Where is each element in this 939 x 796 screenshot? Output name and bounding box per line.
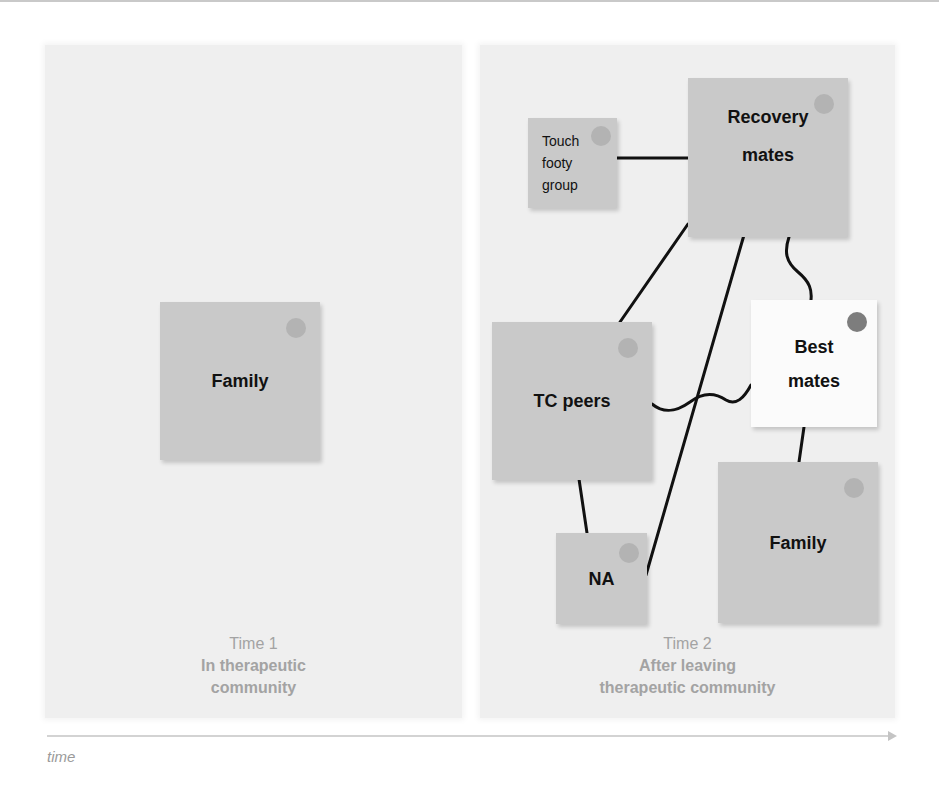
note-label: Family bbox=[769, 528, 826, 558]
note-label: NA bbox=[589, 564, 615, 594]
caption-stage: After leaving therapeutic community bbox=[480, 655, 895, 699]
pin-icon bbox=[847, 312, 867, 332]
note-na: NA bbox=[556, 533, 647, 624]
note-label: TC peers bbox=[533, 386, 610, 416]
note-label: Family bbox=[211, 366, 268, 396]
pin-icon bbox=[591, 126, 611, 146]
top-border bbox=[0, 0, 939, 2]
pin-icon bbox=[619, 543, 639, 563]
caption-time-2: Time 2 After leaving therapeutic communi… bbox=[480, 633, 895, 699]
time-axis-label: time bbox=[47, 748, 75, 765]
note-recovery-mates: Recovery mates bbox=[688, 78, 848, 237]
note-family-time1: Family bbox=[160, 302, 320, 460]
caption-time: Time 2 bbox=[663, 635, 711, 652]
pin-icon bbox=[618, 338, 638, 358]
caption-time: Time 1 bbox=[229, 635, 277, 652]
note-label: Touch footy group bbox=[542, 130, 579, 196]
pin-icon bbox=[814, 94, 834, 114]
caption-time-1: Time 1 In therapeutic community bbox=[45, 633, 462, 699]
note-label: Best mates bbox=[788, 330, 840, 398]
pin-icon bbox=[286, 318, 306, 338]
note-best-mates: Best mates bbox=[751, 300, 877, 427]
note-label: Recovery mates bbox=[727, 98, 808, 174]
caption-stage: In therapeutic community bbox=[45, 655, 462, 699]
note-family-time2: Family bbox=[718, 462, 878, 623]
note-touch-footy-group: Touch footy group bbox=[528, 118, 617, 208]
note-tc-peers: TC peers bbox=[492, 322, 652, 480]
pin-icon bbox=[844, 478, 864, 498]
